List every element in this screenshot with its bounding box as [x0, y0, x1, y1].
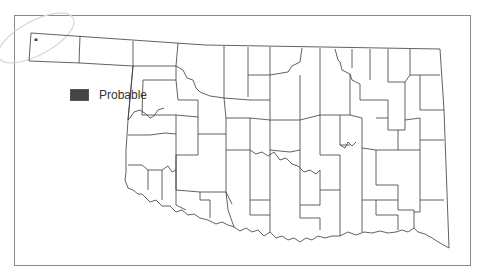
probable-marker: [35, 39, 38, 42]
oklahoma-county-map: [0, 0, 482, 280]
county-boundaries: [29, 33, 449, 248]
legend: Probable: [70, 88, 147, 102]
legend-swatch-probable: [70, 89, 89, 101]
state-outline: [29, 33, 449, 248]
legend-label-probable: Probable: [99, 88, 147, 102]
